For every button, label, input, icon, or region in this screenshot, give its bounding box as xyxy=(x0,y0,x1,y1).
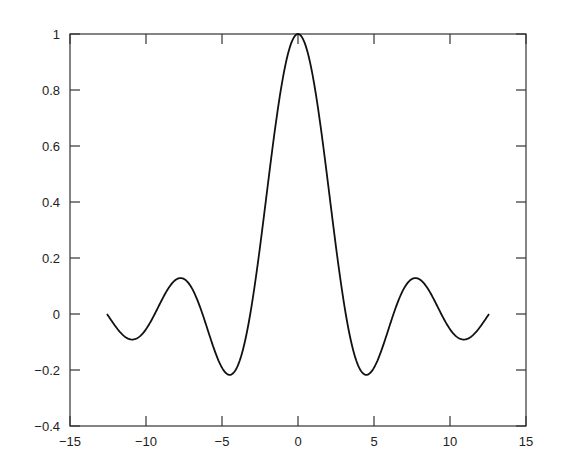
plot-area xyxy=(70,34,526,426)
x-tick-label: −5 xyxy=(215,434,230,449)
data-line xyxy=(107,34,489,375)
y-tick-label: 0 xyxy=(53,307,60,322)
x-tick-label: −15 xyxy=(59,434,81,449)
y-tick-label: 0.6 xyxy=(42,139,60,154)
x-tick-label: 5 xyxy=(370,434,377,449)
x-tick-label: 10 xyxy=(443,434,457,449)
y-ticks: 10.80.60.40.20−0.2−0.4 xyxy=(34,27,526,434)
x-tick-label: 15 xyxy=(519,434,533,449)
chart: −15−10−5051015 10.80.60.40.20−0.2−0.4 xyxy=(0,0,584,473)
y-tick-label: 0.4 xyxy=(42,195,60,210)
y-tick-label: −0.2 xyxy=(34,363,60,378)
x-tick-label: −10 xyxy=(135,434,157,449)
x-ticks: −15−10−5051015 xyxy=(59,34,533,449)
y-tick-label: 0.2 xyxy=(42,251,60,266)
y-tick-label: 1 xyxy=(53,27,60,42)
x-tick-label: 0 xyxy=(294,434,301,449)
y-tick-label: 0.8 xyxy=(42,83,60,98)
y-tick-label: −0.4 xyxy=(34,419,60,434)
